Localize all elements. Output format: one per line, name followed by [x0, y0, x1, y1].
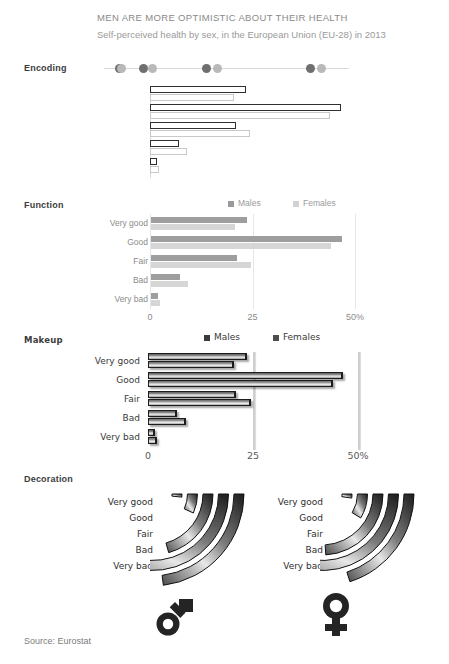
makeup-chart: Makeup Males Females Very goodGoodFairBa… [0, 330, 449, 470]
axis-tick: 0 [147, 312, 152, 322]
axis-tick: 50% [346, 312, 364, 322]
decoration-arc [184, 494, 197, 513]
makeup-bar-females [148, 380, 333, 387]
category-label: Good [56, 233, 148, 252]
encoding-dot [117, 64, 126, 73]
legend-swatch-males [204, 335, 210, 341]
legend-item-females: Females [293, 198, 336, 208]
function-bar-females [151, 243, 331, 249]
gridline [253, 214, 254, 309]
category-label: Bad [48, 409, 140, 428]
function-bar-females [151, 281, 188, 287]
infographic-page: MEN ARE MORE OPTIMISTIC ABOUT THEIR HEAL… [0, 0, 449, 664]
axis-tick: 25 [247, 450, 259, 461]
axis-tick: 25 [247, 312, 257, 322]
female-gender-symbol [316, 590, 356, 638]
makeup-category-labels: Very goodGoodFairBadVery bad [48, 352, 140, 447]
category-label: Bad [228, 542, 323, 558]
decoration-arc [172, 494, 182, 497]
legend-item-males: Males [228, 198, 261, 208]
legend-item-males: Males [204, 332, 240, 342]
encoding-dot [306, 64, 315, 73]
legend-label-females: Females [303, 198, 336, 208]
encoding-dot-strip [104, 68, 349, 70]
encoding-dot [139, 64, 148, 73]
makeup-bar-males [148, 353, 247, 360]
function-bar-males [151, 236, 342, 242]
category-label: Fair [48, 390, 140, 409]
function-bar-males [151, 293, 158, 299]
encoding-bar-males [150, 140, 179, 147]
section-label-makeup: Makeup [24, 335, 63, 345]
category-label: Very bad [58, 558, 153, 574]
category-label: Fair [228, 526, 323, 542]
category-label: Good [58, 510, 153, 526]
encoding-bar-females [150, 130, 250, 137]
encoding-dot [202, 64, 211, 73]
function-bar-females [151, 300, 160, 306]
legend-swatch-males [228, 201, 234, 207]
function-bar-males [151, 217, 247, 223]
section-label-function: Function [24, 200, 64, 210]
makeup-bar-females [148, 361, 234, 368]
decoration-arc [342, 494, 352, 498]
male-gender-symbol [153, 596, 197, 638]
decoration-chart: Decoration Very goodGoodFairBadVery bad … [0, 470, 449, 664]
encoding-dot [148, 64, 157, 73]
legend-label-males: Males [238, 198, 261, 208]
legend-swatch-females [293, 201, 299, 207]
function-bar-females [151, 262, 251, 268]
category-label: Bad [58, 542, 153, 558]
decoration-arc [352, 494, 367, 518]
encoding-dot [213, 64, 222, 73]
function-bar-females [151, 224, 235, 230]
encoding-bar-males [150, 122, 236, 129]
encoding-bar-females [150, 112, 330, 119]
gridline [358, 352, 360, 450]
axis-tick: 50% [347, 450, 368, 461]
encoding-bar-females [150, 148, 187, 155]
encoding-bar-chart [150, 86, 390, 178]
encoding-bar-males [150, 104, 341, 111]
encoding-bar-females [150, 94, 234, 101]
category-label: Very bad [228, 558, 323, 574]
category-label: Very bad [56, 290, 148, 309]
function-bar-males [151, 255, 237, 261]
function-legend: Males Females [228, 198, 336, 208]
category-label: Very good [48, 352, 140, 371]
gridline [253, 352, 255, 450]
category-label: Very good [58, 494, 153, 510]
section-label-encoding: Encoding [24, 63, 67, 73]
category-label: Very good [56, 214, 148, 233]
category-label: Good [48, 371, 140, 390]
encoding-bar-females [150, 166, 159, 173]
makeup-bar-females [148, 399, 251, 406]
category-label: Very bad [48, 428, 140, 447]
decoration-group-females: Very goodGoodFairBadVery bad [228, 470, 428, 664]
makeup-bar-males [148, 372, 343, 379]
encoding-bar-males [150, 86, 246, 93]
makeup-legend: Males Females [204, 332, 320, 342]
encoding-bar-males [150, 158, 157, 165]
encoding-dot [317, 64, 326, 73]
makeup-plot-area [148, 352, 358, 450]
makeup-bar-females [148, 437, 157, 444]
category-label: Fair [56, 252, 148, 271]
gridline [355, 214, 356, 309]
category-label: Very good [228, 494, 323, 510]
category-label: Fair [58, 526, 153, 542]
category-label: Good [228, 510, 323, 526]
axis-tick: 0 [145, 450, 151, 461]
page-title: MEN ARE MORE OPTIMISTIC ABOUT THEIR HEAL… [97, 12, 348, 23]
function-plot-area [150, 214, 355, 309]
decoration-category-labels-females: Very goodGoodFairBadVery bad [228, 494, 323, 574]
legend-item-females: Females [273, 332, 320, 342]
legend-swatch-females [273, 335, 279, 341]
makeup-bar-males [148, 391, 236, 398]
function-bar-males [151, 274, 180, 280]
function-chart: Function Males Females Very goodGoodFair… [0, 195, 449, 325]
source-note: Source: Eurostat [24, 636, 91, 646]
function-category-labels: Very goodGoodFairBadVery bad [56, 214, 148, 309]
category-label: Bad [56, 271, 148, 290]
legend-label-males: Males [214, 332, 240, 342]
